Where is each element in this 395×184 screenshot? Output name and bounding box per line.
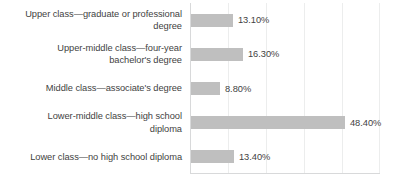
bar-row: 16.30% [190, 37, 380, 71]
category-label-cell: Lower class—no high school diploma [0, 140, 186, 174]
bar-row: 8.80% [190, 71, 380, 105]
plot-area: 13.10% 16.30% 8.80% 48.40% 13.40% [190, 3, 380, 174]
bars-layer: 13.10% 16.30% 8.80% 48.40% 13.40% [190, 3, 380, 174]
category-label: Middle class—associate's degree [46, 82, 182, 95]
bar[interactable] [191, 14, 233, 27]
bar[interactable] [191, 82, 220, 95]
category-label-cell: Upper class—graduate or professional deg… [0, 3, 186, 37]
category-label-cell: Middle class—associate's degree [0, 71, 186, 105]
bar-value-label: 16.30% [248, 49, 279, 59]
bar-row: 13.10% [190, 3, 380, 37]
category-label: Lower class—no high school diploma [30, 151, 182, 164]
category-label: Upper-middle class—four-year bachelor's … [57, 42, 182, 67]
category-label: Upper class—graduate or professional deg… [25, 8, 182, 33]
category-label-cell: Lower-middle class—high school diploma [0, 106, 186, 140]
bar-row: 48.40% [190, 106, 380, 140]
bar-row: 13.40% [190, 140, 380, 174]
category-label: Lower-middle class—high school diploma [48, 110, 182, 135]
bar[interactable] [191, 150, 234, 163]
bar-value-label: 13.10% [238, 15, 269, 25]
bar-value-label: 13.40% [239, 152, 270, 162]
bar-value-label: 8.80% [225, 84, 251, 94]
bar-chart: Upper class—graduate or professional deg… [0, 0, 395, 184]
bar-value-label: 48.40% [350, 118, 381, 128]
category-label-cell: Upper-middle class—four-year bachelor's … [0, 37, 186, 71]
category-axis: Upper class—graduate or professional deg… [0, 3, 186, 174]
bar[interactable] [191, 116, 345, 129]
bar[interactable] [191, 48, 243, 61]
